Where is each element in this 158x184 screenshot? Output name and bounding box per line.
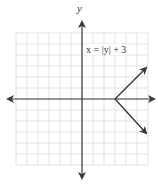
y-axis-label: y: [77, 2, 82, 14]
graph-canvas: [0, 0, 158, 184]
curve-abs-value: [115, 68, 146, 133]
axes: [8, 22, 154, 178]
equation-label: x = |y| + 3: [85, 44, 127, 55]
